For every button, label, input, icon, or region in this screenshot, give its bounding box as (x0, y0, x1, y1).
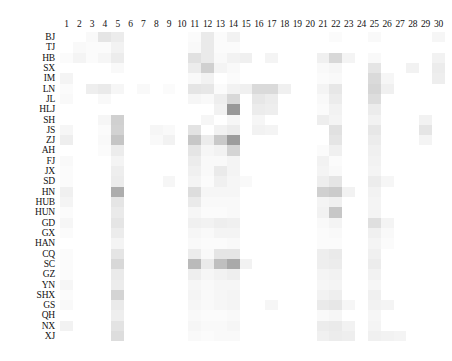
heatmap-cell (124, 249, 137, 259)
heatmap-cell (60, 269, 73, 279)
heatmap-cell (317, 176, 330, 186)
heatmap-cell (240, 218, 253, 228)
heatmap-cell (368, 63, 381, 73)
heatmap-cell (240, 310, 253, 320)
heatmap-cell (419, 42, 432, 52)
heatmap-cell (419, 53, 432, 63)
heatmap-cell (317, 300, 330, 310)
heatmap-cell (201, 187, 214, 197)
heatmap-cell (240, 166, 253, 176)
heatmap-cell (86, 176, 99, 186)
heatmap-cell (137, 166, 150, 176)
heatmap-cell (406, 104, 419, 114)
heatmap-cell (252, 63, 265, 73)
heatmap-cell (98, 63, 111, 73)
heatmap-cell (111, 156, 124, 166)
heatmap-cell (355, 145, 368, 155)
heatmap-cell (291, 331, 304, 341)
heatmap-cell (98, 84, 111, 94)
heatmap-cell (432, 249, 445, 259)
heatmap-cell (317, 207, 330, 217)
heatmap-cell (368, 238, 381, 248)
heatmap-cell (381, 135, 394, 145)
heatmap-cell (240, 135, 253, 145)
heatmap-cell (137, 300, 150, 310)
heatmap-cell (381, 145, 394, 155)
column-header-row: 1234567891011121314151617181920212223242… (60, 18, 445, 31)
heatmap-cell (163, 187, 176, 197)
heatmap-cell (329, 53, 342, 63)
heatmap-cell (355, 42, 368, 52)
heatmap-cell (265, 331, 278, 341)
heatmap-cell (214, 176, 227, 186)
heatmap-cell (252, 207, 265, 217)
heatmap-cell (342, 259, 355, 269)
heatmap-cell (111, 228, 124, 238)
heatmap-cell (227, 207, 240, 217)
heatmap-cell (265, 53, 278, 63)
heatmap-cell (329, 300, 342, 310)
heatmap-cell (252, 53, 265, 63)
heatmap-cell (368, 249, 381, 259)
heatmap-cell (291, 145, 304, 155)
heatmap-cell (278, 238, 291, 248)
heatmap-cell (188, 290, 201, 300)
heatmap-cell (137, 63, 150, 73)
heatmap-cell (137, 228, 150, 238)
heatmap-cell (188, 207, 201, 217)
row-label-column: BJTJHBSXIMLNJLHLJSHJSZJAHFJJXSDHNHUBHUNG… (18, 32, 58, 352)
heatmap-cell (252, 238, 265, 248)
heatmap-cell (214, 135, 227, 145)
heatmap-cell (432, 94, 445, 104)
heatmap-cell (175, 197, 188, 207)
heatmap-cell (214, 104, 227, 114)
heatmap-cell (278, 135, 291, 145)
heatmap-cell (394, 310, 407, 320)
heatmap-cell (291, 280, 304, 290)
heatmap-cell (355, 197, 368, 207)
column-header-17: 17 (265, 18, 278, 31)
heatmap-cell (73, 94, 86, 104)
heatmap-cell (111, 84, 124, 94)
heatmap-cell (329, 94, 342, 104)
heatmap-cell (291, 125, 304, 135)
heatmap-cell (368, 145, 381, 155)
heatmap-cell (201, 197, 214, 207)
heatmap-cell (419, 238, 432, 248)
heatmap-cell (278, 280, 291, 290)
heatmap-cell (188, 259, 201, 269)
heatmap-cell (291, 321, 304, 331)
column-header-6: 6 (124, 18, 137, 31)
heatmap-cell (278, 176, 291, 186)
heatmap-cell (73, 187, 86, 197)
heatmap-cell (419, 125, 432, 135)
heatmap-cell (304, 84, 317, 94)
column-header-4: 4 (98, 18, 111, 31)
heatmap-cell (150, 73, 163, 83)
heatmap-cell (188, 269, 201, 279)
heatmap-cell (329, 280, 342, 290)
heatmap-cell (329, 176, 342, 186)
heatmap-cell (304, 238, 317, 248)
heatmap-cell (406, 300, 419, 310)
heatmap-cell (329, 331, 342, 341)
heatmap-cell (342, 187, 355, 197)
heatmap-cell (214, 42, 227, 52)
heatmap-cell (60, 176, 73, 186)
heatmap-cell (394, 228, 407, 238)
heatmap-cell (329, 238, 342, 248)
heatmap-cell (304, 176, 317, 186)
heatmap-cell (329, 84, 342, 94)
heatmap-cell (304, 321, 317, 331)
heatmap-cell (150, 290, 163, 300)
heatmap-cell (98, 53, 111, 63)
heatmap-cell (419, 259, 432, 269)
heatmap-cell (227, 300, 240, 310)
heatmap-cell (111, 42, 124, 52)
heatmap-cell (278, 125, 291, 135)
heatmap-cell (201, 176, 214, 186)
heatmap-cell (175, 290, 188, 300)
row-label-HUN: HUN (18, 207, 58, 217)
heatmap-cell (86, 63, 99, 73)
heatmap-cell (60, 156, 73, 166)
